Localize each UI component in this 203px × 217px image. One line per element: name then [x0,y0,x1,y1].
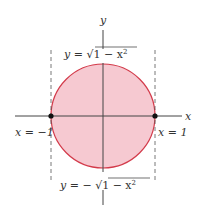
right-bound-label: x = 1 [158,126,187,139]
x-axis-label: x [185,110,192,123]
y-axis-label: y [99,14,107,27]
bottom-curve-lhs: y = − [59,179,95,192]
bottom-curve-equation: y = − √1 − x2 [59,179,136,192]
top-curve-radicand: 1 − x [93,48,123,61]
top-curve-lhs: y = [63,48,86,61]
top-curve-exponent: 2 [123,48,127,56]
bottom-curve-exponent: 2 [132,179,136,187]
right-intersection-point [152,113,157,118]
left-intersection-point [48,113,53,118]
unit-disk-diagram: y x y = √1 − x2 y = − √1 − x2 x = −1 x =… [0,0,203,217]
left-bound-label: x = −1 [15,126,54,139]
bottom-curve-radicand: 1 − x [102,179,132,192]
top-curve-equation: y = √1 − x2 [63,48,127,61]
